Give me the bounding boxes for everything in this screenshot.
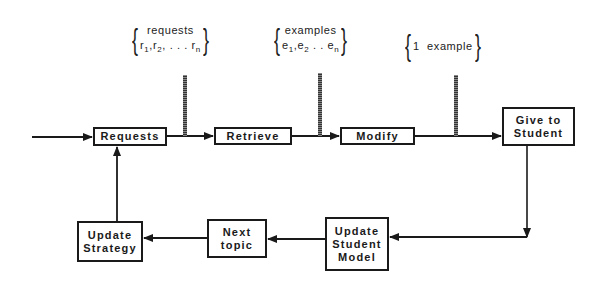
hatched-bar-requests-output: [183, 75, 187, 136]
node-requests: Requests: [93, 127, 167, 146]
left-brace-icon: {: [405, 31, 411, 61]
hatched-bar-example-output: [454, 75, 458, 136]
one-example-title: 1 example: [413, 39, 473, 54]
examples-set-items: e1,e2 . . en: [282, 38, 339, 57]
left-brace-icon: {: [274, 25, 280, 55]
one-example-annotation: { 1 example }: [403, 28, 483, 64]
left-brace-icon: {: [132, 25, 138, 55]
node-update-student-model: Update Student Model: [325, 217, 389, 271]
hatched-bar-examples-output: [318, 73, 322, 136]
right-brace-icon: }: [475, 31, 481, 61]
right-brace-icon: }: [341, 25, 347, 55]
requests-set-title: requests: [147, 23, 194, 38]
right-brace-icon: }: [203, 25, 209, 55]
node-give-to-student: Give to Student: [502, 107, 575, 146]
node-modify: Modify: [340, 127, 415, 145]
node-update-strategy: Update Strategy: [77, 221, 143, 262]
examples-set-title: examples: [285, 23, 337, 38]
node-next-topic: Next topic: [207, 219, 267, 258]
requests-set-items: r1,r2, . . . rn: [140, 38, 201, 57]
node-retrieve: Retrieve: [214, 127, 292, 145]
examples-set-annotation: { examples e1,e2 . . en }: [272, 22, 349, 58]
requests-set-annotation: { requests r1,r2, . . . rn }: [130, 22, 211, 58]
